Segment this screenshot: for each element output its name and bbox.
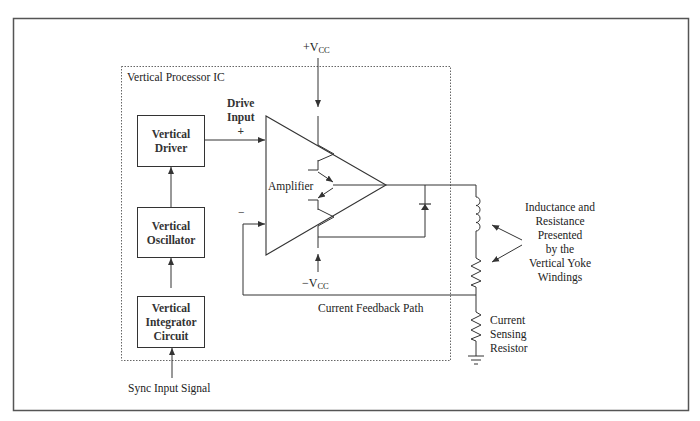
feedback-path-label: Current Feedback Path	[318, 301, 423, 315]
sense-resistor-label: Current Sensing Resistor	[490, 313, 528, 355]
positive-supply-label: +VCC	[303, 40, 330, 57]
vertical-oscillator-block: VerticalOscillator	[137, 207, 205, 258]
sync-input-label: Sync Input Signal	[128, 381, 210, 395]
sense-resistor-symbol	[471, 312, 481, 341]
block-label: Oscillator	[147, 233, 196, 247]
diode-symbol	[421, 204, 429, 210]
yoke-resistor-symbol	[471, 258, 481, 287]
block-label: Driver	[152, 141, 191, 155]
block-label: Vertical	[145, 301, 196, 315]
block-label: Vertical	[152, 127, 191, 141]
vertical-driver-block: VerticalDriver	[137, 115, 205, 167]
inverting-input-sign: −	[238, 205, 245, 219]
block-label: Integrator	[145, 315, 196, 329]
vertical-integrator-block: VerticalIntegratorCircuit	[137, 296, 205, 348]
block-label: Vertical	[147, 219, 196, 233]
yoke-annotation: Inductance and Resistance Presented by t…	[520, 200, 600, 284]
amplifier-label: Amplifier	[268, 179, 313, 193]
ic-container-label: Vertical Processor IC	[127, 70, 225, 84]
drive-input-label: Drive Input +	[227, 96, 255, 138]
negative-supply-label: −VCC	[302, 276, 329, 293]
vertical-deflection-diagram: Vertical Processor IC VerticalDriver Ver…	[0, 0, 700, 421]
inductor-symbol	[476, 197, 480, 231]
block-label: Circuit	[145, 329, 196, 343]
